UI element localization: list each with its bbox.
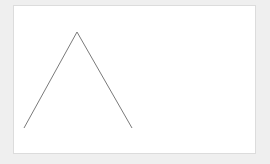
drawing-canvas [0,0,270,164]
peak-polyline [24,32,132,128]
